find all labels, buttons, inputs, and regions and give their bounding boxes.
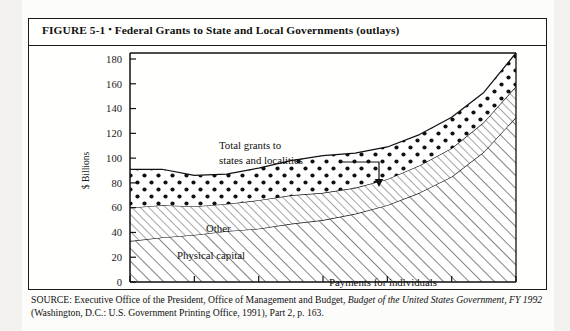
y-tick-label-120: 120 xyxy=(106,128,122,139)
figure-number: FIGURE 5-1 xyxy=(42,24,105,36)
page-right-margin xyxy=(554,0,570,331)
page-root: FIGURE 5-1▪Federal Grants to State and L… xyxy=(0,0,570,331)
title-bullet-icon: ▪ xyxy=(105,24,114,34)
source-line1-italic: Budget of the United xyxy=(348,294,428,305)
source-note: SOURCE: Executive Office of the Presiden… xyxy=(31,293,543,319)
page-left-margin xyxy=(0,0,22,331)
x-tick-label-1992: 1992 xyxy=(505,288,526,290)
annotation-4: Payments for individuals xyxy=(329,276,437,288)
annotation-2: Other xyxy=(206,222,231,234)
annotation-3: Physical capital xyxy=(177,249,245,261)
source-line2-italic: States Government, FY 1992 xyxy=(431,294,542,305)
y-tick-label-20: 20 xyxy=(111,252,122,263)
stacked-area-chart: 0204060801001201401601801980198219841986… xyxy=(29,46,546,289)
y-axis-title: $ Billions xyxy=(80,151,91,189)
x-tick-label-1984: 1984 xyxy=(248,288,270,290)
source-line1-plain: SOURCE: Executive Office of the Presiden… xyxy=(31,294,348,305)
x-tick-label-1990: 1990 xyxy=(441,288,462,290)
y-tick-label-0: 0 xyxy=(117,277,122,288)
chart-plot-area: 0204060801001201401601801980198219841986… xyxy=(29,46,546,289)
figure-title-text: Federal Grants to State and Local Govern… xyxy=(115,24,400,36)
source-line2-plain: (Washington, D.C.: U.S. Government Print… xyxy=(31,307,324,318)
annotation-0: Total grants to xyxy=(219,139,281,151)
y-tick-label-180: 180 xyxy=(106,54,122,65)
y-tick-label-80: 80 xyxy=(111,178,122,189)
y-tick-label-60: 60 xyxy=(111,202,122,213)
x-tick-label-1982: 1982 xyxy=(184,288,205,290)
x-tick-label-1980: 1980 xyxy=(119,288,140,290)
figure-title: FIGURE 5-1▪Federal Grants to State and L… xyxy=(42,24,400,36)
y-tick-label-140: 140 xyxy=(106,103,122,114)
y-tick-label-100: 100 xyxy=(106,153,122,164)
y-tick-label-40: 40 xyxy=(111,227,122,238)
annotation-1: states and localities xyxy=(219,154,303,166)
y-tick-label-160: 160 xyxy=(106,79,122,90)
